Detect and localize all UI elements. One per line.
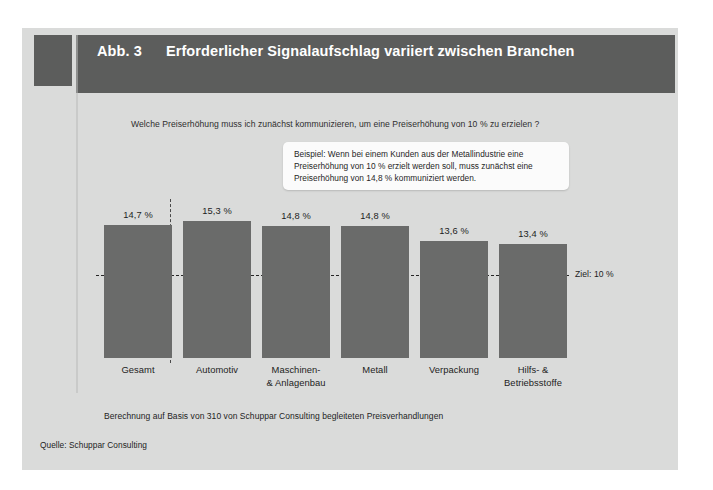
bar-6 [499, 244, 567, 358]
bar-3 [262, 226, 330, 358]
category-label-3-line-2: & Anlagenbau [238, 377, 354, 390]
bar-2 [183, 221, 251, 358]
figure-container: Abb. 3 Erforderlicher Signalaufschlag va… [0, 0, 713, 490]
bar-1 [104, 225, 172, 358]
category-label-6: Hilfs- &Betriebsstoffe [475, 364, 591, 389]
figure-source: Quelle: Schuppar Consulting [40, 440, 147, 450]
bar-value-label-4: 14,8 % [325, 211, 425, 221]
bar-4 [341, 226, 409, 358]
figure-footnote: Berechnung auf Basis von 310 von Schuppa… [104, 411, 574, 421]
category-label-6-line-2: Betriebsstoffe [475, 377, 591, 390]
bar-value-label-6: 13,4 % [483, 229, 583, 239]
category-label-6-line-1: Hilfs- & [475, 364, 591, 377]
target-reference-label: Ziel: 10 % [575, 269, 614, 279]
bar-5 [420, 241, 488, 358]
